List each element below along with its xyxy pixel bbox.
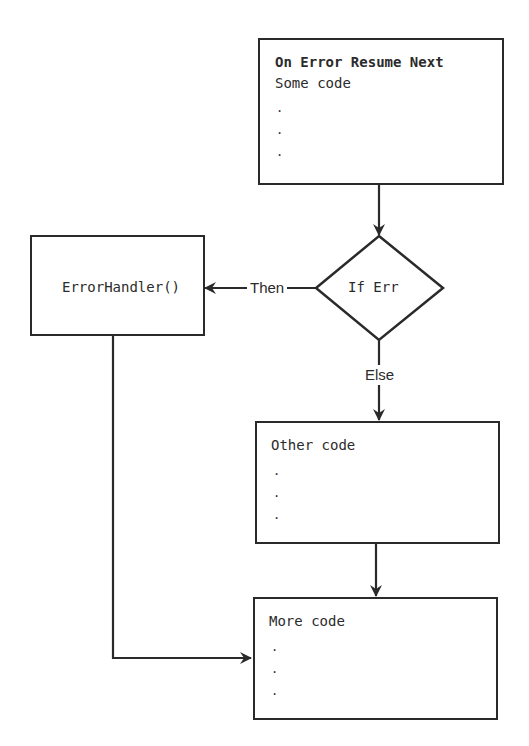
- error-handler-label: ErrorHandler(): [62, 279, 180, 295]
- then-label: Then: [247, 279, 287, 297]
- flowchart-canvas: On Error Resume Next Some code . . . Err…: [0, 0, 529, 746]
- other-ellipsis-1: .: [273, 465, 280, 477]
- start-title: On Error Resume Next: [275, 54, 444, 70]
- start-ellipsis-3: .: [276, 146, 283, 158]
- start-box: On Error Resume Next Some code . . .: [258, 38, 504, 185]
- more-ellipsis-2: .: [271, 663, 278, 675]
- arrow-handler-to-more: [113, 335, 251, 658]
- more-code-box: More code . . .: [253, 597, 498, 720]
- more-line-1: More code: [269, 613, 345, 629]
- other-line-1: Other code: [271, 437, 355, 453]
- start-ellipsis-2: .: [276, 124, 283, 136]
- decision-label: If Err: [348, 279, 399, 295]
- more-ellipsis-3: .: [271, 685, 278, 697]
- start-line-1: Some code: [275, 75, 351, 91]
- other-code-box: Other code . . .: [255, 421, 500, 544]
- start-ellipsis-1: .: [276, 102, 283, 114]
- other-ellipsis-3: .: [273, 509, 280, 521]
- else-label: Else: [364, 365, 395, 385]
- more-ellipsis-1: .: [271, 641, 278, 653]
- other-ellipsis-2: .: [273, 487, 280, 499]
